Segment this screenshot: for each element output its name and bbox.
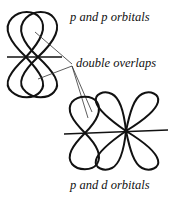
label-pd: p and d orbitals [70,178,150,193]
d-orbital-lobe-ll [96,131,126,170]
d-orbital-lobe-ul [96,92,126,131]
label-overlap: double overlaps [76,56,156,71]
p-orbital-left [8,12,44,97]
d-orbital-lobe-ur [126,92,158,131]
label-pp: p and p orbitals [70,10,150,25]
p-orbital-right [21,12,57,97]
d-orbital-lobe-lr [126,131,158,170]
orbital-diagram [0,0,176,198]
pd-axis [64,130,168,134]
